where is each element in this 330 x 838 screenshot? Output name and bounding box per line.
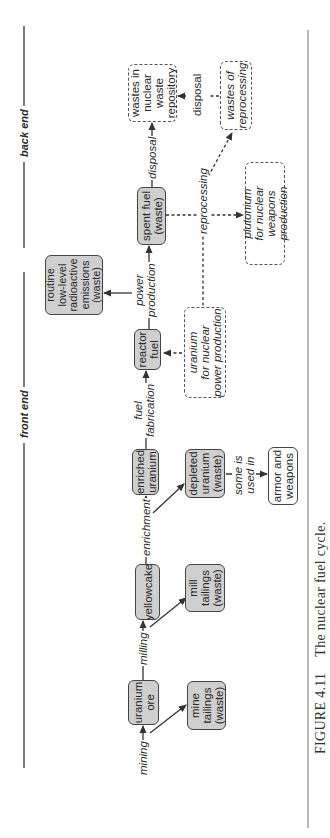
nuclear-fuel-cycle-diagram: front end back end uranium ore yellowcak…	[0, 0, 330, 838]
figure-caption: FIGURE 4.11The nuclear fuel cycle.	[313, 522, 329, 755]
figure-title: The nuclear fuel cycle.	[313, 522, 328, 657]
caption-rule	[0, 0, 330, 838]
figure-number: FIGURE 4.11	[313, 673, 328, 754]
